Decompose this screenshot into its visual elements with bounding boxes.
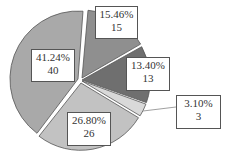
- label-count: 13: [127, 72, 169, 85]
- label-13-40: 13.40% 13: [126, 57, 170, 91]
- leader-line-3-10: [143, 107, 176, 111]
- label-count: 15: [96, 21, 137, 34]
- label-count: 3: [177, 110, 220, 123]
- label-pct: 41.24%: [32, 51, 74, 64]
- label-41-24: 41.24% 40: [31, 49, 75, 82]
- label-count: 40: [32, 64, 74, 77]
- label-26-80: 26.80% 26: [67, 112, 111, 146]
- label-pct: 26.80%: [68, 114, 110, 127]
- label-15-46: 15.46% 15: [95, 6, 138, 39]
- label-pct: 13.40%: [127, 59, 169, 72]
- label-pct: 15.46%: [96, 8, 137, 21]
- label-3-10: 3.10% 3: [176, 95, 221, 129]
- label-count: 26: [68, 127, 110, 140]
- label-pct: 3.10%: [177, 97, 220, 110]
